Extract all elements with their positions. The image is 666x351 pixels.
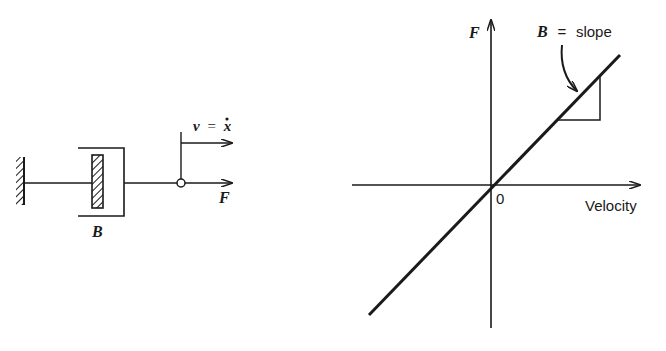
x-axis-label: Velocity: [585, 197, 637, 214]
velocity-label: v = x: [193, 118, 232, 134]
fixed-wall-icon: [16, 157, 24, 205]
y-axis-label: F: [468, 24, 480, 41]
origin-label: 0: [496, 190, 504, 207]
piston-icon: [92, 155, 103, 208]
dot-accent-icon: [225, 117, 228, 120]
diagram-canvas: v = x F B F B = slope 0 Velocity: [0, 0, 666, 351]
slope-annotation: B = slope: [536, 23, 612, 40]
slope-pointer-arrow-icon: [562, 45, 577, 91]
force-velocity-plot: F B = slope 0 Velocity: [352, 20, 640, 328]
damper-label: B: [91, 223, 103, 240]
force-label: F: [218, 189, 230, 206]
node-circle-icon: [177, 179, 185, 187]
damper-schematic: v = x F B: [16, 117, 232, 240]
